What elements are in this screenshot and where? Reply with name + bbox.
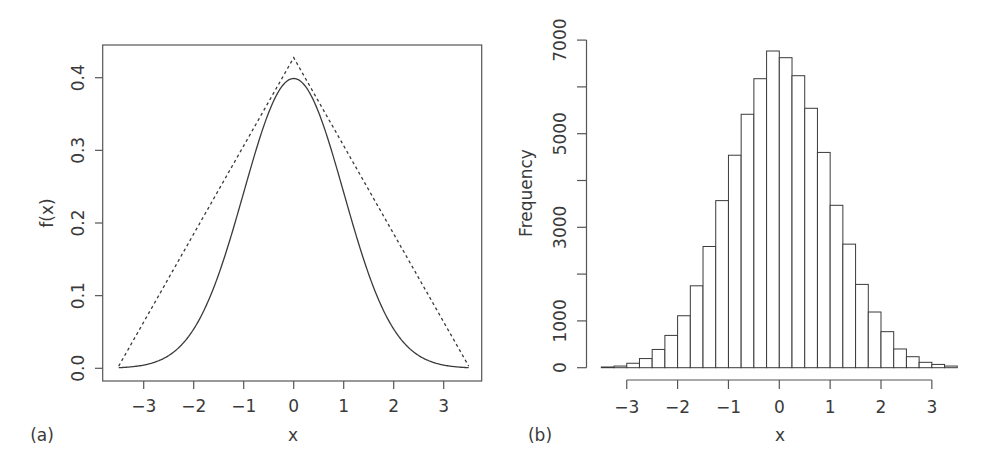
panel-a-density-plot: 0.00.10.20.30.4 −3−2−10123 f(x) x (a) <box>0 0 490 472</box>
histogram-bar <box>652 349 665 367</box>
histogram-bar <box>741 114 754 367</box>
density-curve <box>119 78 469 367</box>
histogram-bar <box>830 205 843 367</box>
envelope-dashed-line <box>119 58 469 366</box>
x-tick-label: 3 <box>926 397 937 417</box>
histogram-bar <box>856 284 869 367</box>
histogram-bar <box>716 201 729 368</box>
histogram-bar <box>894 349 907 368</box>
x-tick-label: −1 <box>716 397 741 417</box>
histogram-bar <box>932 364 945 367</box>
y-axis-label: Frequency <box>516 149 536 237</box>
histogram-bar <box>805 108 818 367</box>
histogram-bar <box>945 366 958 368</box>
histogram-bar <box>792 76 805 368</box>
x-axis-label: x <box>288 425 298 445</box>
x-tick-label: 3 <box>438 396 449 416</box>
x-tick-label: −2 <box>181 396 206 416</box>
x-tick-label: 0 <box>288 396 299 416</box>
histogram-bar <box>817 152 830 367</box>
histogram-bar <box>881 332 894 368</box>
x-tick-label: −2 <box>665 397 690 417</box>
y-tick-label: 7000 <box>550 18 570 61</box>
histogram-bar <box>678 316 691 368</box>
y-axis: 0.00.10.20.30.4 <box>68 64 103 382</box>
y-tick-label: 1000 <box>550 299 570 342</box>
histogram-bar <box>779 58 792 368</box>
histogram-bar <box>906 357 919 368</box>
panel-label: (b) <box>528 425 552 445</box>
y-tick-label: 0.1 <box>68 282 88 309</box>
x-tick-label: −3 <box>614 397 639 417</box>
x-tick-label: 0 <box>774 397 785 417</box>
y-tick-label: 3000 <box>550 206 570 249</box>
x-tick-label: 1 <box>338 396 349 416</box>
x-tick-label: 1 <box>825 397 836 417</box>
histogram-bar <box>601 367 614 368</box>
histogram-bar <box>754 79 767 368</box>
histogram-bar <box>690 286 703 368</box>
panel-label: (a) <box>30 425 54 445</box>
x-tick-label: −3 <box>131 396 156 416</box>
histogram-bar <box>728 155 741 367</box>
y-tick-label: 0.0 <box>68 355 88 382</box>
histogram-bars <box>601 51 957 368</box>
y-tick-label: 0.4 <box>68 64 88 91</box>
x-tick-label: 2 <box>876 397 887 417</box>
y-tick-label: 0 <box>550 362 570 373</box>
histogram-bar <box>627 363 640 367</box>
histogram-bar <box>843 244 856 368</box>
x-tick-label: 2 <box>388 396 399 416</box>
y-axis-label: f(x) <box>37 198 57 227</box>
y-tick-label: 5000 <box>550 112 570 155</box>
histogram-bar <box>665 335 678 367</box>
plot-series <box>119 58 469 368</box>
y-tick-label: 0.2 <box>68 209 88 236</box>
histogram-bar <box>767 51 780 368</box>
y-axis: 01000300050007000 <box>550 18 587 373</box>
plot-box <box>103 45 482 381</box>
plot-frame <box>103 45 482 381</box>
x-axis: −3−2−10123 <box>614 380 937 417</box>
x-axis: −3−2−10123 <box>131 381 449 416</box>
x-axis-label: x <box>775 425 785 445</box>
histogram-bar <box>868 312 881 368</box>
x-tick-label: −1 <box>231 396 256 416</box>
y-tick-label: 0.3 <box>68 137 88 164</box>
histogram-bar <box>639 359 652 368</box>
histogram-bar <box>919 362 932 367</box>
figure: 0.00.10.20.30.4 −3−2−10123 f(x) x (a) 01… <box>0 0 985 472</box>
histogram-bar <box>703 246 716 367</box>
histogram-bar <box>614 366 627 368</box>
